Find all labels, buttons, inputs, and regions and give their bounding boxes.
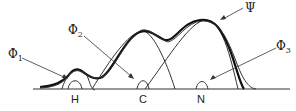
atom-label-c: C: [139, 94, 147, 105]
phi1-arrow: [22, 58, 66, 78]
atom-label-n: N: [197, 94, 205, 105]
phi3-arrow: [212, 48, 276, 79]
phi3-subscript: 3: [286, 46, 291, 55]
wavefunction-diagram: Φ1 Φ2 Φ3 Ψ H C N: [0, 0, 296, 111]
phi1-subscript: 1: [18, 54, 23, 63]
psi-label: Ψ: [245, 2, 256, 14]
h-orbital-bump: [68, 81, 82, 89]
phi3-curve: [145, 20, 238, 89]
phi1-curve: [62, 70, 95, 90]
psi-arrowhead: [220, 15, 226, 20]
phi3-symbol: Φ: [276, 39, 286, 53]
phi2-subscript: 2: [78, 30, 83, 39]
c-orbital-bump: [137, 81, 149, 89]
phi1-label: Φ1: [8, 48, 23, 63]
phi3-label: Φ3: [276, 40, 291, 55]
phi2-symbol: Φ: [68, 23, 78, 37]
n-orbital-bump: [196, 82, 208, 90]
diagram-canvas: [0, 0, 296, 111]
phi1-symbol: Φ: [8, 47, 18, 61]
atom-label-h: H: [71, 94, 79, 105]
phi2-label: Φ2: [68, 24, 83, 39]
phi3-arrowhead: [210, 75, 216, 80]
psi-arrow: [223, 8, 243, 19]
